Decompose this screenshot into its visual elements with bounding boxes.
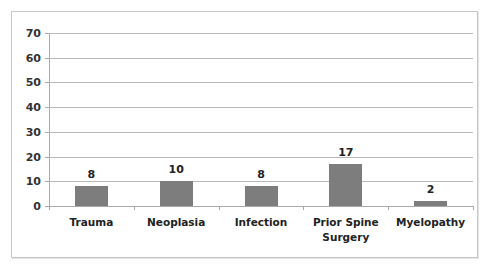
y-tick: [45, 107, 49, 108]
gridline: [49, 132, 473, 133]
data-label: 2: [411, 183, 451, 196]
y-tick-label: 30: [11, 125, 41, 138]
gridline: [49, 82, 473, 83]
x-tick: [219, 206, 220, 210]
x-tick: [49, 206, 50, 210]
x-tick-label: Prior SpineSurgery: [304, 215, 388, 245]
y-tick: [45, 157, 49, 158]
data-label: 17: [326, 146, 366, 159]
y-tick: [45, 132, 49, 133]
bar-infection: [245, 186, 278, 206]
gridline: [49, 33, 473, 34]
x-tick-label: Infection: [219, 215, 303, 230]
data-label: 8: [241, 168, 281, 181]
x-tick-label: Trauma: [49, 215, 133, 230]
bar-myelopathy: [414, 201, 447, 206]
x-tick: [134, 206, 135, 210]
x-tick: [388, 206, 389, 210]
y-tick: [45, 58, 49, 59]
gridline: [49, 107, 473, 108]
gridline: [49, 58, 473, 59]
y-tick-label: 10: [11, 175, 41, 188]
data-label: 10: [156, 163, 196, 176]
x-tick: [473, 206, 474, 210]
x-tick-label: Myelopathy: [389, 215, 473, 230]
x-tick: [303, 206, 304, 210]
y-tick-label: 60: [11, 51, 41, 64]
gridline: [49, 181, 473, 182]
y-tick-label: 70: [11, 27, 41, 40]
bar-trauma: [75, 186, 108, 206]
y-tick: [45, 33, 49, 34]
y-tick-label: 50: [11, 76, 41, 89]
data-label: 8: [71, 168, 111, 181]
bar-prior-spine-surgery: [329, 164, 362, 206]
y-tick-label: 0: [11, 200, 41, 213]
plot-area: 8108172: [49, 33, 473, 206]
y-tick-label: 20: [11, 150, 41, 163]
y-axis-line: [49, 33, 50, 209]
y-tick: [45, 82, 49, 83]
y-tick: [45, 181, 49, 182]
gridline: [49, 157, 473, 158]
bar-neoplasia: [160, 181, 193, 206]
x-tick-label: Neoplasia: [134, 215, 218, 230]
x-axis-line: [49, 206, 473, 207]
y-tick-label: 40: [11, 101, 41, 114]
